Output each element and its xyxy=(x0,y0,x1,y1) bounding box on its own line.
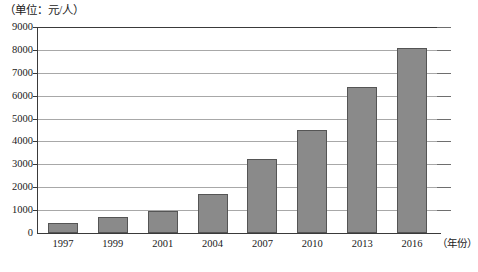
y-axis-tick-mark xyxy=(437,73,451,74)
bar xyxy=(297,130,327,233)
bar-chart-figure: （单位：元/人） 0100020003000400050006000700080… xyxy=(0,0,478,272)
x-axis-line xyxy=(37,233,441,234)
y-axis-tick-label: 8000 xyxy=(2,45,33,56)
y-axis-tick-labels: 0100020003000400050006000700080009000 xyxy=(0,0,33,272)
x-axis-title: （年份） xyxy=(437,238,477,249)
bar xyxy=(247,159,277,233)
x-axis-tick-label: 2001 xyxy=(138,238,188,249)
bar xyxy=(148,211,178,233)
y-axis-tick-label: 4000 xyxy=(2,136,33,147)
x-axis-tick-label: 2013 xyxy=(337,238,387,249)
x-axis-tick-label: 2007 xyxy=(237,238,287,249)
bar xyxy=(397,48,427,233)
y-axis-tick-label: 1000 xyxy=(2,205,33,216)
bar xyxy=(347,87,377,233)
bar xyxy=(98,217,128,233)
x-axis-tick-label: 1997 xyxy=(38,238,88,249)
y-axis-tick-label: 9000 xyxy=(2,22,33,33)
y-axis-tick-mark xyxy=(437,27,451,28)
x-axis-tick-label: 2004 xyxy=(188,238,238,249)
y-axis-tick-mark xyxy=(437,210,451,211)
y-axis-tick-mark xyxy=(437,119,451,120)
y-axis-tick-mark xyxy=(437,187,451,188)
x-axis-tick-label: 2010 xyxy=(287,238,337,249)
y-axis-tick-label: 5000 xyxy=(2,114,33,125)
y-axis-tick-label: 0 xyxy=(2,228,33,239)
bar xyxy=(48,223,78,233)
y-axis-tick-mark xyxy=(437,96,451,97)
y-axis-tick-mark xyxy=(437,164,451,165)
bar xyxy=(198,194,228,233)
y-axis-tick-mark xyxy=(437,141,451,142)
y-axis-tick-label: 7000 xyxy=(2,68,33,79)
y-axis-tick-label: 6000 xyxy=(2,91,33,102)
x-axis-tick-label: 1999 xyxy=(88,238,138,249)
x-axis-tick-label: 2016 xyxy=(387,238,437,249)
y-axis-tick-label: 3000 xyxy=(2,159,33,170)
y-axis-tick-label: 2000 xyxy=(2,182,33,193)
bars-container xyxy=(38,27,437,233)
y-axis-tick-mark xyxy=(437,50,451,51)
